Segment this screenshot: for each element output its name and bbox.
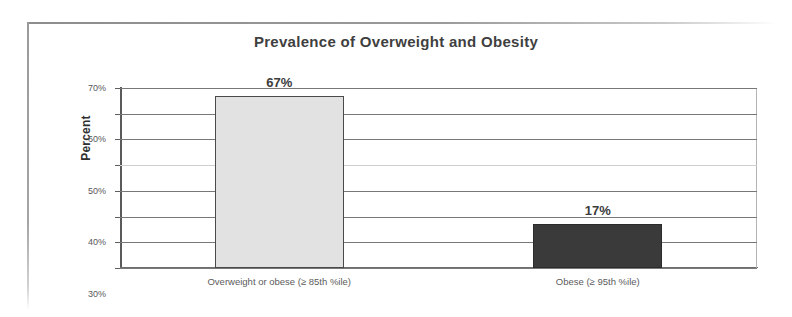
y-axis-tick-mark: 10% xyxy=(115,242,120,243)
bar[interactable] xyxy=(533,224,662,268)
bar-value-label: 67% xyxy=(266,75,292,90)
y-axis-tick-mark: 60% xyxy=(115,114,120,115)
x-axis-category-label: Obese (≥ 95th %ile) xyxy=(556,276,640,287)
bar[interactable] xyxy=(215,96,344,268)
y-axis-tick-label: 70% xyxy=(88,83,106,93)
y-axis-tick-label: 40% xyxy=(88,237,106,247)
y-axis-tick-label: 60% xyxy=(88,134,106,144)
bar-value-label: 17% xyxy=(585,203,611,218)
y-axis-tick-mark: 70% xyxy=(115,88,120,89)
y-axis-tick-mark: 20% xyxy=(115,217,120,218)
page-frame-left-border xyxy=(27,22,29,310)
plot-area: 0%10%20%30%40%50%60%70% xyxy=(120,88,757,268)
y-axis-tick-mark: 50% xyxy=(115,139,120,140)
plot-right-border xyxy=(756,88,757,268)
gridline xyxy=(120,268,757,269)
chart-title: Prevalence of Overweight and Obesity xyxy=(0,33,792,50)
chart-page: Prevalence of Overweight and Obesity Per… xyxy=(0,0,792,317)
y-axis-tick-label: 50% xyxy=(88,186,106,196)
y-axis-tick-label: 30% xyxy=(88,289,106,299)
y-axis-tick-mark: 30% xyxy=(115,191,120,192)
x-axis-category-label: Overweight or obese (≥ 85th %ile) xyxy=(207,276,351,287)
y-axis-tick-mark: 40% xyxy=(115,165,120,166)
gridline xyxy=(120,88,757,89)
y-axis-tick-mark: 0% xyxy=(115,268,120,269)
page-frame-top-border xyxy=(27,22,778,24)
